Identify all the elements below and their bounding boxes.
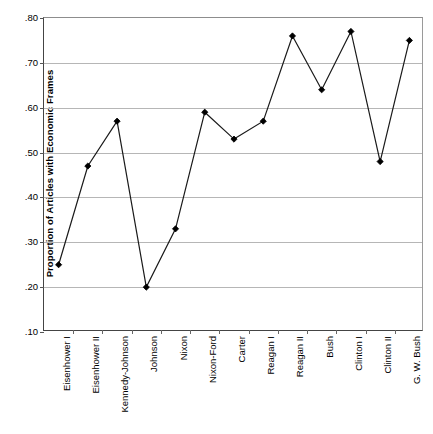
x-axis-category-label: Clinton II: [383, 336, 393, 374]
x-axis-category-label: Clinton I: [354, 336, 364, 371]
x-axis-category-label: Reagan II: [295, 336, 305, 377]
data-point-marker: [85, 163, 91, 169]
x-axis-category-label: Johnson: [149, 336, 159, 372]
y-axis-tick-label: .40: [0, 192, 38, 202]
series-polyline: [59, 31, 410, 287]
data-point-marker: [114, 118, 120, 124]
data-point-marker: [289, 33, 295, 39]
data-point-marker: [319, 87, 325, 93]
data-point-marker: [406, 37, 412, 43]
x-axis-category-label: Carter: [237, 336, 247, 362]
y-axis-tick-mark: [40, 332, 44, 333]
x-axis-category-label: G. W. Bush: [412, 336, 422, 384]
y-axis-tick-label: .60: [0, 103, 38, 113]
x-axis-category-label: Bush: [325, 336, 335, 358]
y-axis-tick-label: .20: [0, 282, 38, 292]
x-axis-category-label: Reagan I: [266, 336, 276, 375]
data-series-line: [44, 18, 424, 332]
x-axis-category-label: Eisenhower I: [62, 336, 72, 391]
data-point-marker: [348, 28, 354, 34]
x-axis-category-label: Kennedy-Johnson: [120, 336, 130, 413]
data-point-marker: [56, 262, 62, 268]
y-axis-tick-label: .10: [0, 327, 38, 337]
data-point-marker: [377, 158, 383, 164]
x-axis-category-label: Eisenhower II: [91, 336, 101, 394]
y-axis-tick-label: .80: [0, 13, 38, 23]
data-point-marker: [172, 226, 178, 232]
y-axis-tick-label: .70: [0, 58, 38, 68]
plot-area: .80.70.60.50.40.30.20.10: [43, 17, 423, 331]
data-point-marker: [143, 284, 149, 290]
x-axis-category-label: Nixon-Ford: [208, 336, 218, 383]
x-axis-category-label: Nixon: [179, 336, 189, 360]
data-point-marker: [260, 118, 266, 124]
y-axis-tick-label: .30: [0, 237, 38, 247]
y-axis-tick-label: .50: [0, 148, 38, 158]
chart-figure: Proportion of Articles with Economic Fra…: [0, 0, 433, 434]
